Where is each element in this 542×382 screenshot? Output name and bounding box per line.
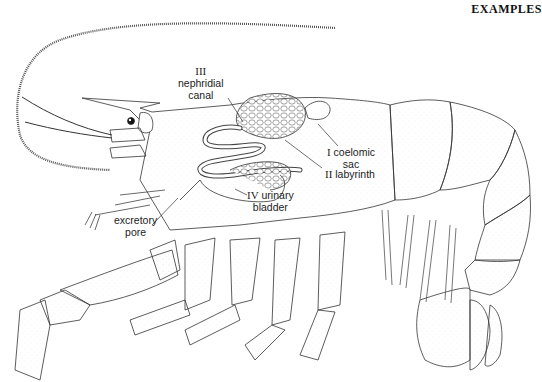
label-nephridial-canal: III nephridial canal — [178, 65, 224, 101]
walking-legs — [15, 232, 345, 380]
label-labyrinth: II labyrinth — [325, 168, 375, 180]
label-urinary-bladder: IV urinary bladder — [247, 189, 294, 213]
tail-fan — [417, 288, 502, 370]
label-excretory-pore: excretory pore — [114, 214, 157, 238]
label-coelomic-sac: I coelomic sac — [327, 146, 375, 170]
abdomen — [390, 100, 531, 295]
swimmerets — [382, 210, 456, 303]
